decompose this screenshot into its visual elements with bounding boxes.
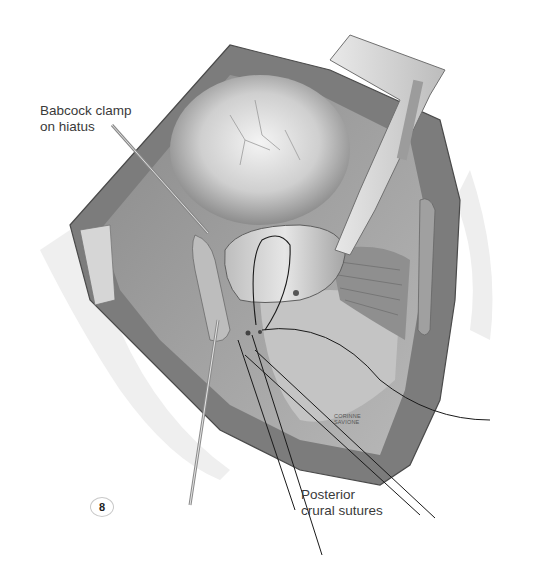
label-line: on hiatus bbox=[40, 119, 132, 135]
drape-shadow-right bbox=[455, 170, 493, 340]
label-line: crural sutures bbox=[301, 503, 383, 519]
label-babcock-clamp: Babcock clamp on hiatus bbox=[40, 103, 132, 135]
signature-line: SAVIONE bbox=[334, 419, 361, 425]
surgical-illustration: Babcock clamp on hiatus Posterior crural… bbox=[0, 0, 552, 581]
label-posterior-crural-sutures: Posterior crural sutures bbox=[301, 487, 383, 519]
artist-signature: CORINNE SAVIONE bbox=[334, 413, 361, 425]
illustration-artwork bbox=[0, 0, 552, 581]
label-line: Posterior bbox=[301, 487, 383, 503]
liver-dome bbox=[170, 75, 350, 225]
figure-number-badge: 8 bbox=[90, 497, 114, 517]
label-line: Babcock clamp bbox=[40, 103, 132, 119]
